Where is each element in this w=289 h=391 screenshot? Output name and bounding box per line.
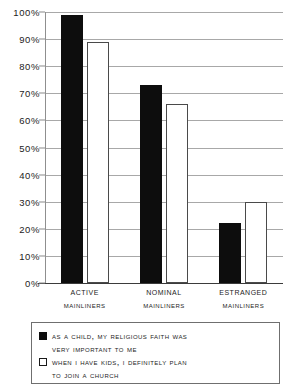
x-category-label-line1: Active: [45, 286, 124, 299]
legend-item: As a child, my religious faith was very …: [39, 330, 277, 355]
legend-label: When I have kids, I definitely plan to j…: [52, 356, 187, 381]
y-tick-mark: [39, 12, 45, 13]
legend: As a child, my religious faith was very …: [31, 322, 280, 384]
x-category-label-line2: Mainliners: [124, 299, 203, 312]
legend-label-line1: As a child, my religious faith was: [52, 331, 187, 341]
y-tick-mark: [39, 147, 45, 148]
y-axis: 100%90%80%70%60%50%40%30%20%10%0%: [0, 0, 40, 300]
y-tick-label: 40%: [19, 169, 40, 180]
x-category-label: NominalMainliners: [124, 286, 203, 311]
legend-label-line2: very important to me: [52, 344, 137, 354]
y-tick-label: 50%: [19, 142, 40, 153]
bars-layer: [45, 0, 283, 284]
legend-label: As a child, my religious faith was very …: [52, 330, 187, 355]
x-category-label-line1: Nominal: [124, 286, 203, 299]
x-axis-category-labels: ActiveMainlinersNominalMainlinersEstrang…: [45, 286, 283, 318]
y-tick-label: 60%: [19, 115, 40, 126]
y-tick-label: 20%: [19, 223, 40, 234]
x-category-label-line1: Estranged: [204, 286, 283, 299]
bar: [166, 104, 188, 283]
bar: [61, 15, 83, 283]
legend-swatch-filled-icon: [39, 332, 47, 340]
x-category-label: ActiveMainliners: [45, 286, 124, 311]
bar: [87, 42, 109, 283]
bar: [140, 85, 162, 283]
y-tick-label: 90%: [19, 34, 40, 45]
plot-region: 100%90%80%70%60%50%40%30%20%10%0% Active…: [0, 0, 289, 300]
y-tick-mark: [39, 66, 45, 67]
legend-item: When I have kids, I definitely plan to j…: [39, 356, 277, 381]
y-tick-label: 30%: [19, 196, 40, 207]
bar-chart: 100%90%80%70%60%50%40%30%20%10%0% Active…: [0, 0, 289, 391]
y-tick-mark: [39, 283, 45, 284]
y-tick-mark: [39, 255, 45, 256]
legend-label-line1: When I have kids, I definitely plan: [52, 357, 187, 367]
y-tick-mark: [39, 174, 45, 175]
y-tick-label: 70%: [19, 88, 40, 99]
y-tick-mark: [39, 39, 45, 40]
y-tick-mark: [39, 201, 45, 202]
legend-swatch-hollow-icon: [39, 358, 47, 366]
bar: [219, 223, 241, 283]
x-category-label-line2: Mainliners: [204, 299, 283, 312]
y-tick-mark: [39, 93, 45, 94]
legend-label-line2: to join a church: [52, 370, 119, 380]
y-tick-label: 80%: [19, 61, 40, 72]
bar: [245, 202, 267, 283]
y-tick-mark: [39, 120, 45, 121]
y-tick-mark: [39, 228, 45, 229]
x-category-label: EstrangedMainliners: [204, 286, 283, 311]
y-tick-label: 10%: [19, 250, 40, 261]
y-tick-label: 100%: [13, 7, 40, 18]
x-category-label-line2: Mainliners: [45, 299, 124, 312]
